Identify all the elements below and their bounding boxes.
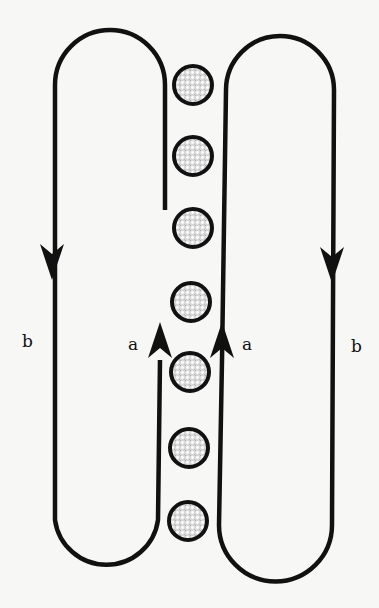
label-b-right: b xyxy=(351,336,362,356)
particle-1 xyxy=(174,66,212,104)
right-loop xyxy=(219,36,334,582)
particle-7 xyxy=(169,502,207,540)
left-loop xyxy=(55,30,165,565)
label-a-left: a xyxy=(128,334,138,354)
arrow-left-inner-up-icon xyxy=(148,322,172,358)
particle-2 xyxy=(174,137,212,175)
particle-6 xyxy=(170,429,208,467)
particle-4 xyxy=(172,283,210,321)
particle-3 xyxy=(174,209,212,247)
particle-5 xyxy=(171,353,209,391)
arrow-left-outer-down-icon xyxy=(40,244,64,280)
particle-column xyxy=(169,66,212,540)
loop-diagram: baab xyxy=(0,0,379,608)
label-b-left: b xyxy=(22,331,33,351)
label-a-right: a xyxy=(242,334,252,354)
